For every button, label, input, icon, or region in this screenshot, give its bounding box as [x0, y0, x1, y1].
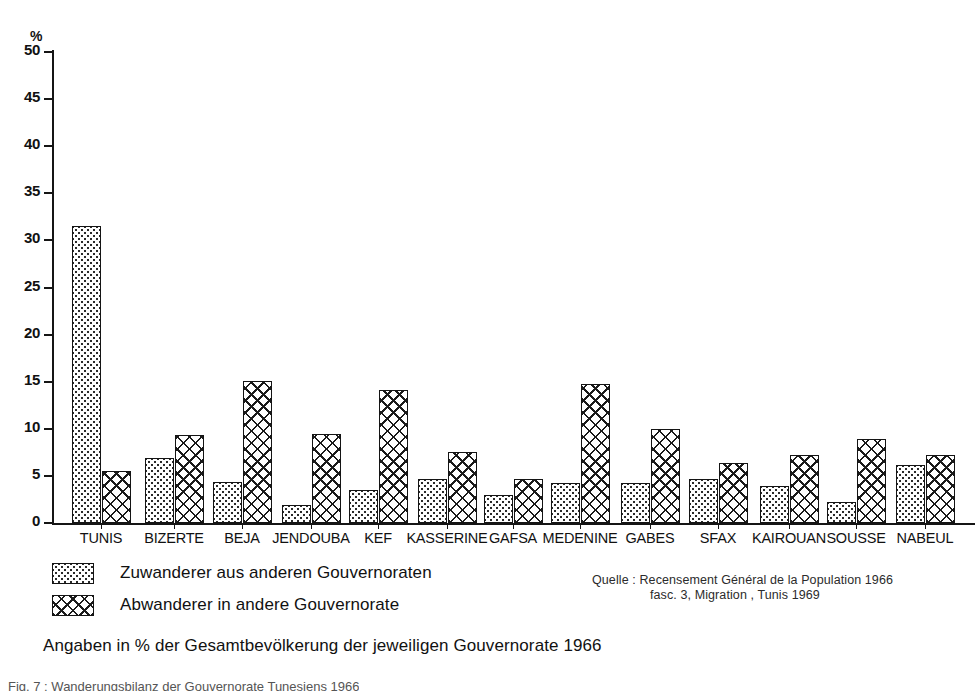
x-axis-tick-mark	[789, 525, 790, 529]
bar-immigrants	[145, 458, 174, 523]
y-axis-tick-label: 40	[8, 135, 40, 152]
y-axis-tick-label: 10	[8, 418, 40, 435]
bar-group	[621, 52, 680, 523]
bar-group	[213, 52, 272, 523]
bar-group	[72, 52, 131, 523]
bar-group	[551, 52, 610, 523]
bar-emigrants	[312, 434, 341, 523]
x-axis-tick-mark	[378, 525, 379, 529]
x-axis-tick-mark	[580, 525, 581, 529]
x-axis-tick-mark	[174, 525, 175, 529]
x-axis-tick-mark	[101, 525, 102, 529]
x-axis-tick-mark	[856, 525, 857, 529]
bar-immigrants	[827, 502, 856, 523]
bar-emigrants	[926, 455, 955, 523]
legend-item-emigrants: Abwanderer in andere Gouvernorate	[52, 589, 432, 621]
legend-item-immigrants: Zuwanderer aus anderen Gouvernoraten	[52, 557, 432, 589]
bar-emigrants	[379, 390, 408, 523]
y-axis-tick-label: 20	[8, 324, 40, 341]
plot-area	[52, 52, 975, 523]
chart-note: Angaben in % der Gesamtbevölkerung der j…	[43, 636, 602, 656]
source-citation: Quelle : Recensement Général de la Popul…	[592, 573, 893, 603]
bar-immigrants	[418, 479, 447, 523]
bar-group	[827, 52, 886, 523]
x-axis-label-nabeul: NABEUL	[865, 530, 980, 546]
x-axis-tick-mark	[718, 525, 719, 529]
bar-immigrants	[282, 505, 311, 523]
y-axis-tick-label: 15	[8, 371, 40, 388]
chart-legend: Zuwanderer aus anderen Gouvernoraten Abw…	[52, 557, 432, 621]
y-axis-tick-label: 30	[8, 229, 40, 246]
bar-immigrants	[896, 465, 925, 523]
y-axis-tick-label: 45	[8, 88, 40, 105]
bar-immigrants	[689, 479, 718, 523]
source-line-1: Quelle : Recensement Général de la Popul…	[592, 573, 893, 587]
bar-immigrants	[760, 486, 789, 523]
bar-immigrants	[551, 483, 580, 524]
x-axis-tick-mark	[650, 525, 651, 529]
x-axis-tick-mark	[311, 525, 312, 529]
legend-label-emigrants: Abwanderer in andere Gouvernorate	[120, 595, 399, 615]
crosshatch-swatch-icon	[52, 595, 94, 616]
figure-caption: Fig. 7 : Wanderungsbilanz der Gouvernora…	[8, 679, 359, 691]
bar-immigrants	[349, 490, 378, 523]
bar-group	[145, 52, 204, 523]
bar-emigrants	[581, 384, 610, 523]
y-axis-tick-label: 35	[8, 182, 40, 199]
source-line-2: fasc. 3, Migration , Tunis 1969	[592, 588, 893, 603]
y-axis-tick-label: 5	[8, 465, 40, 482]
bar-emigrants	[790, 455, 819, 523]
x-axis-tick-mark	[447, 525, 448, 529]
y-axis-tick-label: 50	[8, 41, 40, 58]
bar-emigrants	[102, 471, 131, 523]
x-axis-tick-mark	[513, 525, 514, 529]
x-axis-tick-mark	[925, 525, 926, 529]
bar-group	[418, 52, 477, 523]
x-axis-tick-mark	[242, 525, 243, 529]
bar-group	[896, 52, 955, 523]
bar-emigrants	[719, 463, 748, 523]
y-axis-tick-label: 25	[8, 277, 40, 294]
bar-emigrants	[651, 429, 680, 523]
bar-emigrants	[243, 381, 272, 523]
legend-label-immigrants: Zuwanderer aus anderen Gouvernoraten	[120, 563, 432, 583]
stippled-swatch-icon	[52, 563, 94, 584]
bar-immigrants	[484, 495, 513, 523]
bar-immigrants	[213, 482, 242, 523]
bar-group	[484, 52, 543, 523]
bar-group	[689, 52, 748, 523]
bar-emigrants	[448, 452, 477, 523]
bar-immigrants	[72, 226, 101, 523]
chart-figure: % 05101520253035404550 TUNISBIZERTEBEJAJ…	[0, 0, 980, 691]
bar-group	[760, 52, 819, 523]
bar-group	[282, 52, 341, 523]
bar-emigrants	[175, 435, 204, 523]
y-axis-tick-label: 0	[8, 512, 40, 529]
bar-emigrants	[857, 439, 886, 523]
bar-emigrants	[514, 479, 543, 523]
bar-group	[349, 52, 408, 523]
bar-immigrants	[621, 483, 650, 524]
